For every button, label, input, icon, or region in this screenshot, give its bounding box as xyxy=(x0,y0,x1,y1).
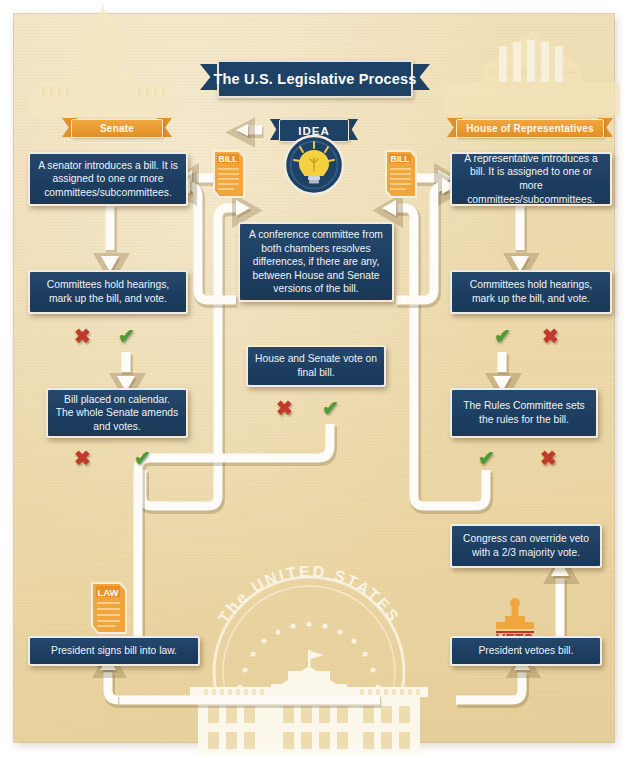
box-president-vetoes: President vetoes bill. xyxy=(450,636,602,666)
house-label-plate: House of Representatives xyxy=(456,119,604,138)
house-label-text: House of Representatives xyxy=(466,123,594,134)
senate-chamber-label: Senate xyxy=(62,118,172,137)
senate-label-text: Senate xyxy=(100,123,134,134)
svg-text:LAW: LAW xyxy=(97,587,118,598)
box-house-committees: Committees hold hearings, mark up the bi… xyxy=(450,270,612,314)
svg-text:BILL: BILL xyxy=(219,154,238,164)
svg-text:BILL: BILL xyxy=(391,154,410,164)
mark-pass-senate-committee: ✔ xyxy=(118,326,135,346)
mark-pass-house-rules: ✔ xyxy=(478,448,495,468)
bill-scroll-icon-right: BILL xyxy=(384,148,418,200)
mark-fail-senate-committee: ✖ xyxy=(74,326,91,346)
page-title-text: The U.S. Legislative Process xyxy=(213,71,416,87)
box-senate-calendar: Bill placed on calendar. The whole Senat… xyxy=(46,388,188,438)
page-title: The U.S. Legislative Process xyxy=(217,60,413,98)
mark-fail-house-rules: ✖ xyxy=(540,448,557,468)
box-president-signs: President signs bill into law. xyxy=(28,636,200,666)
mark-pass-senate-calendar: ✔ xyxy=(134,448,151,468)
box-senate-introduces: A senator introduces a bill. It is assig… xyxy=(28,152,188,206)
bill-scroll-icon-left: BILL xyxy=(212,148,246,200)
lightbulb-icon xyxy=(283,134,345,196)
box-house-introduces: A representative introduces a bill. It i… xyxy=(450,152,612,206)
mark-pass-house-committee: ✔ xyxy=(494,326,511,346)
box-congress-override: Congress can override veto with a 2/3 ma… xyxy=(450,524,602,568)
box-final-vote: House and Senate vote on final bill. xyxy=(246,345,386,387)
title-ribbon: The U.S. Legislative Process xyxy=(200,60,430,94)
mark-fail-house-committee: ✖ xyxy=(542,326,559,346)
mark-pass-final-vote: ✔ xyxy=(322,398,339,418)
mark-fail-senate-calendar: ✖ xyxy=(74,448,91,468)
box-senate-committees: Committees hold hearings, mark up the bi… xyxy=(28,270,188,314)
senate-label-plate: Senate xyxy=(71,119,163,138)
infographic-root: The UNITED STATES xyxy=(0,0,630,758)
box-conference-committee: A conference committee from both chamber… xyxy=(238,222,394,302)
mark-fail-final-vote: ✖ xyxy=(276,398,293,418)
house-chamber-label: House of Representatives xyxy=(447,118,613,137)
box-house-rules-committee: The Rules Committee sets the rules for t… xyxy=(450,388,598,438)
law-scroll-icon: LAW xyxy=(90,580,128,636)
